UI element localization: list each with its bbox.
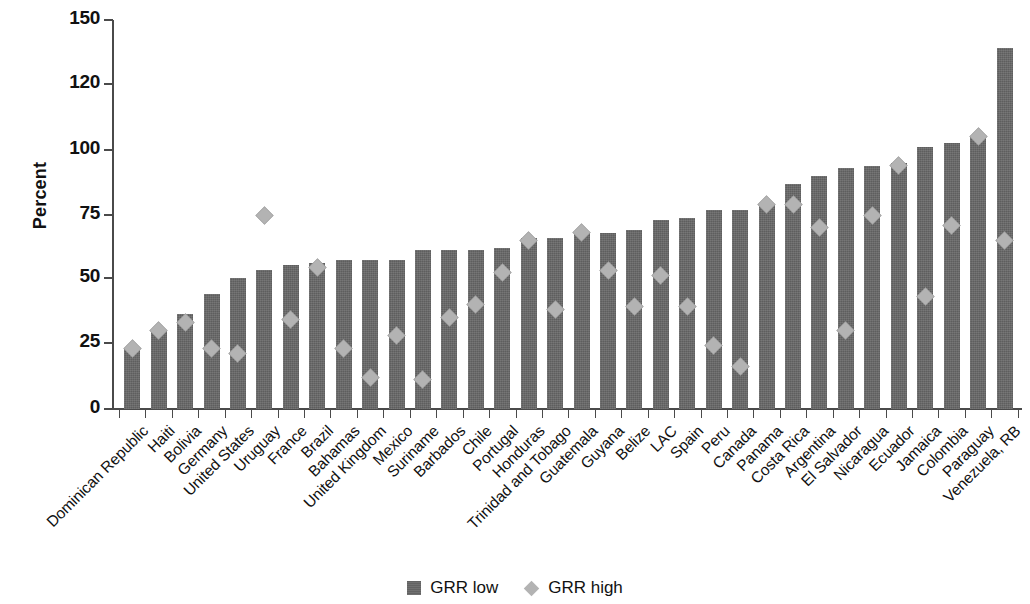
x-axis-tick	[701, 410, 702, 418]
x-axis-label: Brazil	[297, 422, 337, 462]
bar	[336, 260, 352, 409]
x-axis-label: Dominican Republic	[43, 422, 152, 531]
x-axis-tick	[225, 410, 226, 418]
x-axis-tick	[568, 410, 569, 418]
x-axis-tick	[674, 410, 675, 418]
x-axis-tick	[780, 410, 781, 418]
x-axis-tick	[595, 410, 596, 418]
x-axis-label: Guyana	[577, 422, 628, 473]
x-axis-tick	[330, 410, 331, 418]
bar	[732, 210, 748, 409]
y-axis-tick-label: 25	[52, 330, 100, 352]
x-axis-tick	[912, 410, 913, 418]
x-axis-tick	[938, 410, 939, 418]
x-axis-label: Paraguay	[939, 422, 998, 481]
x-axis-label: United Kingdom	[300, 422, 390, 512]
x-axis-label: Spain	[667, 422, 707, 462]
x-axis-label: Venezuela, RB	[940, 422, 1024, 506]
bar	[864, 166, 880, 409]
x-axis-label: Chile	[458, 422, 495, 459]
x-axis-tick	[833, 410, 834, 418]
x-axis-label: Guatemala	[536, 422, 602, 488]
bar	[944, 143, 960, 409]
x-axis-tick	[198, 410, 199, 418]
bar	[547, 238, 563, 409]
legend-label: GRR high	[548, 578, 623, 598]
x-axis-label: Nicaragua	[830, 422, 892, 484]
bar	[706, 210, 722, 409]
x-axis-tick	[621, 410, 622, 418]
bar	[970, 137, 986, 409]
bar	[283, 265, 299, 409]
x-axis-tick	[278, 410, 279, 418]
y-axis-tick-label: 100	[52, 137, 100, 159]
bar	[600, 233, 616, 409]
x-axis-tick	[516, 410, 517, 418]
x-axis-label: Barbados	[410, 422, 469, 481]
x-axis-tick	[648, 410, 649, 418]
x-axis-label: LAC	[647, 422, 681, 456]
x-axis-label: El Salvador	[798, 422, 866, 490]
legend-label: GRR low	[430, 578, 498, 598]
bar	[891, 163, 907, 409]
x-axis-label: Argentina	[780, 422, 839, 481]
x-axis-label: Peru	[698, 422, 734, 458]
x-axis-label: Suriname	[384, 422, 443, 481]
x-axis-label: Colombia	[913, 422, 971, 480]
x-axis-tick	[806, 410, 807, 418]
x-axis-tick	[251, 410, 252, 418]
bar	[521, 238, 537, 409]
x-axis-tick	[145, 410, 146, 418]
chart-legend: GRR lowGRR high	[0, 578, 1030, 598]
x-axis-tick	[119, 410, 120, 418]
x-axis-tick	[727, 410, 728, 418]
bar	[917, 147, 933, 409]
bar	[574, 233, 590, 409]
x-axis-tick	[965, 410, 966, 418]
bar	[759, 205, 775, 409]
x-axis-tick	[436, 410, 437, 418]
x-axis-tick	[383, 410, 384, 418]
y-axis-tick-label: 120	[52, 71, 100, 93]
x-axis-label: Ecuador	[865, 422, 918, 475]
bar	[151, 330, 167, 409]
y-axis-tick-label: 50	[52, 265, 100, 287]
x-axis-label: Portugal	[469, 422, 522, 475]
bar	[653, 220, 669, 409]
x-axis-label: Belize	[612, 422, 654, 464]
x-axis-label: Bolivia	[160, 422, 205, 467]
bar	[230, 278, 246, 409]
legend-item: GRR low	[407, 578, 498, 598]
data-point-marker	[255, 206, 273, 224]
bar	[811, 176, 827, 409]
chart-figure: Percent 0255075100120150 Dominican Repub…	[0, 0, 1030, 604]
legend-square-icon	[407, 581, 421, 595]
x-axis-label: Costa Rica	[747, 422, 813, 488]
legend-diamond-icon	[524, 580, 540, 596]
x-axis-tick	[172, 410, 173, 418]
y-axis-tick-group: 0255075100120150	[0, 0, 112, 420]
x-axis-label: Jamaica	[892, 422, 945, 475]
x-axis-label: Bahamas	[305, 422, 364, 481]
bar	[626, 230, 642, 409]
x-axis-tick	[410, 410, 411, 418]
x-axis-label: Honduras	[489, 422, 549, 482]
x-axis-tick	[489, 410, 490, 418]
y-axis-tick-label: 0	[52, 396, 100, 418]
x-axis-label: Trinidad and Tobago	[464, 422, 575, 533]
x-axis-tick	[1018, 410, 1019, 418]
bar	[441, 250, 457, 409]
bar	[256, 270, 272, 409]
bar	[785, 184, 801, 409]
legend-item: GRR high	[524, 578, 623, 598]
x-axis-tick	[859, 410, 860, 418]
x-axis-tick	[886, 410, 887, 418]
bar	[997, 48, 1013, 409]
bar	[838, 168, 854, 409]
x-axis-label: France	[264, 422, 310, 468]
x-axis-label: Uruguay	[230, 422, 284, 476]
x-axis-tick	[357, 410, 358, 418]
x-axis-label: Panama	[733, 422, 786, 475]
y-axis-tick-label: 150	[52, 7, 100, 29]
x-axis-tick	[542, 410, 543, 418]
